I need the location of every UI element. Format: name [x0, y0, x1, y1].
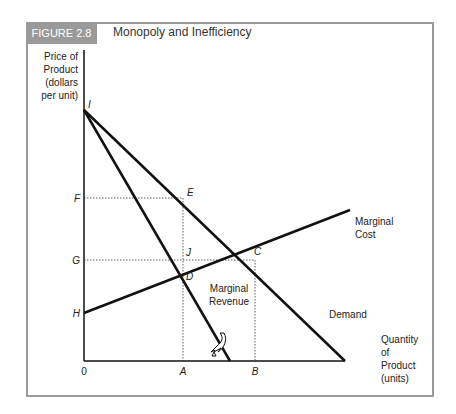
mr-label-2: Revenue [209, 296, 249, 307]
origin-label: 0 [81, 366, 87, 377]
y-label-1: Price of [44, 51, 78, 62]
x-label-3: Product [381, 360, 416, 371]
y-label-3: (dollars [45, 77, 78, 88]
demand-label: Demand [329, 309, 367, 320]
mc-label-2: Cost [355, 229, 376, 240]
point-b: B [252, 366, 259, 377]
mc-label-1: Marginal [355, 216, 393, 227]
point-j: J [185, 247, 192, 258]
y-label-2: Product [44, 64, 79, 75]
point-f: F [74, 193, 81, 204]
arrow-icon [211, 333, 226, 356]
point-i: I [88, 99, 91, 110]
point-d: D [186, 271, 193, 282]
point-c: C [254, 246, 262, 257]
point-e: E [187, 187, 194, 198]
chart: Price of Product (dollars per unit) Quan… [0, 0, 456, 414]
demand-curve [84, 110, 345, 361]
point-a: A [179, 366, 187, 377]
point-h: H [73, 308, 81, 319]
y-label-4: per unit) [41, 90, 78, 101]
mr-label-1: Marginal [210, 283, 248, 294]
point-g: G [72, 255, 80, 266]
x-label-1: Quantity [381, 334, 418, 345]
x-label-2: of [381, 347, 390, 358]
x-label-4: (units) [381, 373, 409, 384]
marginal-revenue-curve [84, 110, 230, 361]
